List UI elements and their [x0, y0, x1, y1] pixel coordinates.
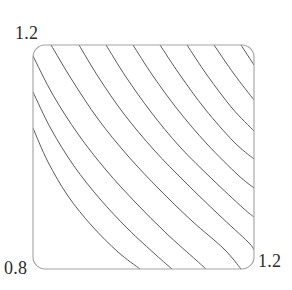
axis-label-bottom-right: 1.2: [258, 252, 281, 270]
streamline-curve: [51, 45, 241, 269]
streamline-curve: [160, 45, 254, 159]
streamline-curve: [241, 45, 254, 65]
streamline-curve: [79, 45, 254, 250]
streamline-curve: [187, 45, 254, 131]
figure-root: 1.2 0.8 1.2: [0, 0, 292, 290]
streamline-group: [33, 45, 254, 269]
streamline-curve: [33, 128, 140, 269]
axis-label-top-left: 1.2: [15, 24, 38, 42]
streamline-curve: [214, 45, 254, 100]
streamline-plot-canvas: [0, 0, 292, 290]
streamline-curve: [133, 45, 254, 188]
streamline-curve: [33, 56, 206, 269]
plot-frame-border: [33, 45, 254, 269]
axis-label-bottom-left: 0.8: [4, 259, 27, 277]
